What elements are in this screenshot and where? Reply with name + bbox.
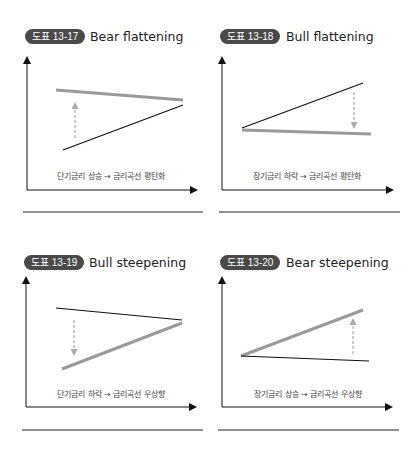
- before-curve-black: [242, 83, 363, 128]
- before-curve-black: [63, 105, 183, 150]
- panel-title: Bear steepening: [286, 255, 389, 270]
- before-curve-black: [56, 308, 182, 320]
- panel-title: Bear flattening: [90, 29, 183, 44]
- after-curve-gray: [241, 310, 363, 356]
- panel-caption: 단기금리 하락 → 금리곡선 우상향: [57, 388, 165, 399]
- panel-caption: 장기금리 하락 → 금리곡선 평탄화: [253, 170, 361, 181]
- panel-bear-steepening-plot: [218, 278, 399, 430]
- panel-caption: 단기금리 상승 → 금리곡선 평탄화: [57, 170, 165, 181]
- yield-curve-diagrams: [0, 0, 418, 453]
- after-curve-gray: [56, 90, 183, 100]
- figure-number-badge: 도표 13-18: [220, 29, 280, 44]
- before-curve-black: [241, 356, 369, 361]
- panel-bull-flattening-plot: [219, 58, 400, 212]
- panel-title: Bull steepening: [89, 255, 186, 270]
- panel-title: Bull flattening: [286, 29, 374, 44]
- after-curve-gray: [62, 323, 182, 369]
- figure-number-badge: 도표 13-20: [220, 255, 280, 270]
- after-curve-gray: [242, 130, 371, 134]
- panel-caption: 장기금리 상승 → 금리곡선 우상향: [254, 388, 362, 399]
- panel-bear-flattening-plot: [23, 58, 203, 212]
- panel-bull-steepening-plot: [22, 278, 203, 430]
- figure-number-badge: 도표 13-19: [24, 255, 84, 270]
- figure-number-badge: 도표 13-17: [25, 29, 85, 44]
